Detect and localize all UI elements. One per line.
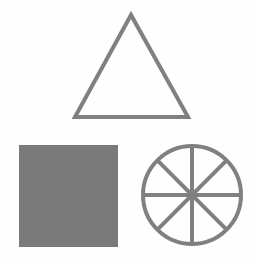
triangle-shape bbox=[75, 15, 188, 117]
wheel-shape bbox=[143, 146, 241, 244]
square-shape bbox=[19, 145, 118, 247]
shapes-canvas bbox=[0, 0, 256, 265]
